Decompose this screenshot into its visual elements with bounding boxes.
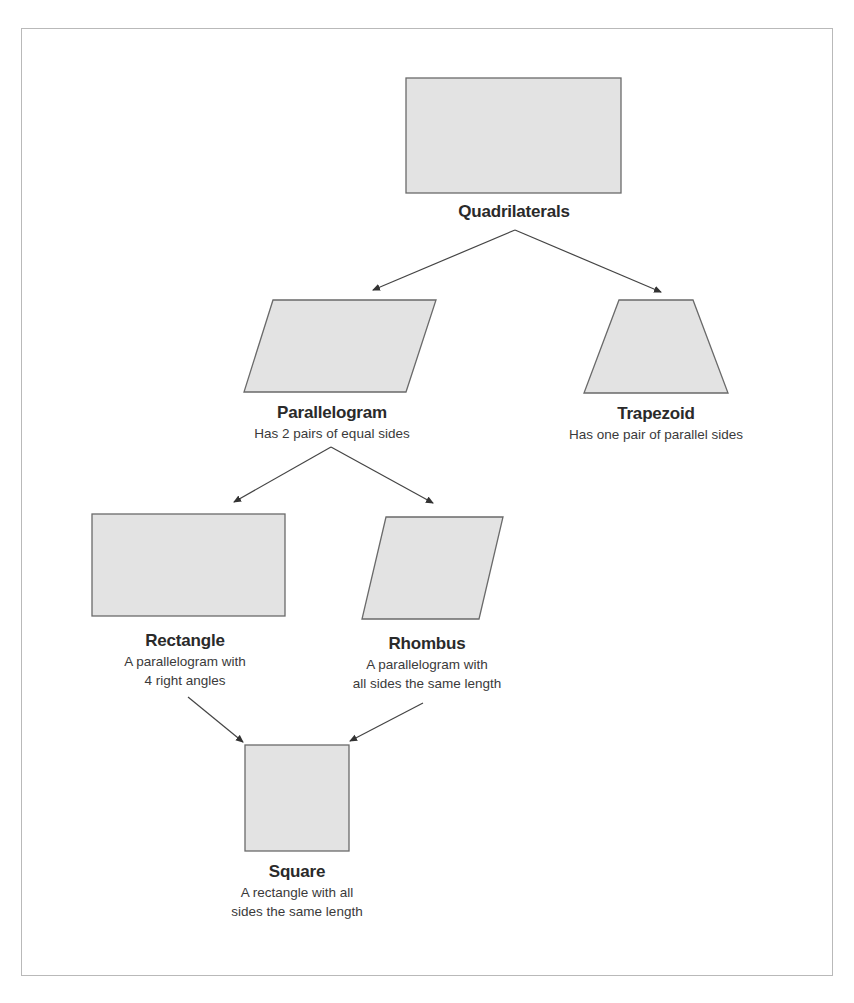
node-description: A parallelogram with (353, 655, 502, 674)
arrow-parallelogram-to-rhombus (331, 447, 433, 503)
node-description: A parallelogram with (124, 652, 246, 671)
arrow-rectangle-to-square (188, 697, 243, 742)
node-title: Quadrilaterals (458, 201, 570, 223)
node-title: Square (231, 861, 362, 883)
arrow-quadrilaterals-to-trapezoid (515, 230, 661, 292)
quadrilateral-shape (406, 78, 621, 193)
trapezoid-shape (584, 300, 728, 393)
node-title: Rectangle (124, 630, 246, 652)
diagram-canvas (0, 0, 854, 1003)
node-description: sides the same length (231, 902, 362, 921)
node-description: all sides the same length (353, 674, 502, 693)
square-shape (245, 745, 349, 851)
node-rectangle: Rectangle A parallelogram with 4 right a… (124, 630, 246, 690)
rectangle-shape (92, 514, 285, 616)
node-description: Has 2 pairs of equal sides (254, 424, 409, 443)
node-rhombus: Rhombus A parallelogram with all sides t… (353, 633, 502, 693)
node-square: Square A rectangle with all sides the sa… (231, 861, 362, 921)
arrow-parallelogram-to-rectangle (234, 447, 331, 502)
node-description: 4 right angles (124, 671, 246, 690)
rhombus-shape (362, 517, 503, 619)
node-description: A rectangle with all (231, 883, 362, 902)
node-title: Trapezoid (569, 403, 743, 425)
node-quadrilaterals: Quadrilaterals (458, 201, 570, 223)
node-title: Parallelogram (254, 402, 409, 424)
node-description: Has one pair of parallel sides (569, 425, 743, 444)
arrow-quadrilaterals-to-parallelogram (373, 230, 515, 290)
parallelogram-shape (244, 300, 436, 392)
node-title: Rhombus (353, 633, 502, 655)
node-trapezoid: Trapezoid Has one pair of parallel sides (569, 403, 743, 444)
arrow-rhombus-to-square (350, 703, 423, 741)
node-parallelogram: Parallelogram Has 2 pairs of equal sides (254, 402, 409, 443)
